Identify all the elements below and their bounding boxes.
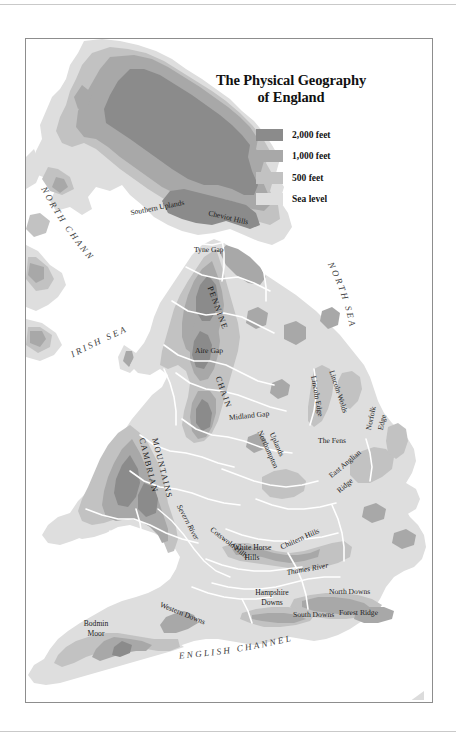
legend-swatch-1000 [256,150,283,162]
legend-row-sea-level: Sea level [256,191,386,208]
label-north-sea: NORTH SEA [325,259,357,329]
legend-row-1000: 1,000 feet [256,148,386,165]
legend-label-sea-level: Sea level [292,194,327,204]
legend-row-500: 500 feet [256,169,386,186]
elevation-legend: 2,000 feet 1,000 feet 500 feet Sea level [256,126,386,212]
legend-row-2000: 2,000 feet [256,126,386,143]
label-north-channel: NORTH CHANNEL [25,38,97,263]
legend-label-1000: 1,000 feet [292,151,331,161]
page-rule-top [0,4,456,5]
legend-label-500: 500 feet [292,173,323,183]
page-rule-bottom [0,731,456,732]
legend-swatch-sea-level [256,193,283,205]
legend-swatch-500 [256,172,283,184]
label-english-channel: ENGLISH CHANNEL [177,633,293,661]
label-irish-sea: IRISH SEA [68,324,129,360]
map-figure: NORTH CHANNEL IRISH SEA NORTH SEA ENGLIS… [0,0,456,736]
legend-swatch-2000 [256,129,283,141]
legend-label-2000: 2,000 feet [292,130,331,140]
